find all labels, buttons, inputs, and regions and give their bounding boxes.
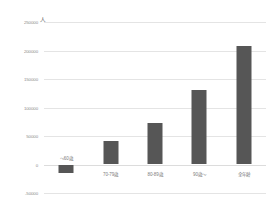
bar-series: ～60歳70-79歳80-89歳90歳～全年齢 <box>44 22 266 193</box>
y-axis-tick-label: 150000 <box>0 77 38 82</box>
x-axis-category-label: ～60歳 <box>60 155 73 161</box>
x-axis-category-label: 90歳～ <box>193 171 206 177</box>
bar <box>236 46 251 165</box>
bar-group: 90歳～ <box>177 22 221 193</box>
plot-area: ～60歳70-79歳80-89歳90歳～全年齢 <box>44 22 266 193</box>
bar <box>147 123 162 165</box>
y-axis-tick-label: 200000 <box>0 48 38 53</box>
y-axis-tick-label: 100000 <box>0 105 38 110</box>
bar-group: ～60歳 <box>44 22 88 193</box>
y-axis-tick-label: 0 <box>0 162 38 167</box>
bar-chart: 人 ～60歳70-79歳80-89歳90歳～全年齢 25000020000015… <box>0 0 271 217</box>
y-axis-tick-label: 250000 <box>0 20 38 25</box>
bar-group: 80-89歳 <box>133 22 177 193</box>
y-axis-tick-label: 50000 <box>0 134 38 139</box>
y-axis-tick-label: -50000 <box>0 191 38 196</box>
bar <box>59 165 74 174</box>
bar-group: 70-79歳 <box>88 22 132 193</box>
x-axis-category-label: 70-79歳 <box>103 171 118 177</box>
x-axis-category-label: 80-89歳 <box>148 171 163 177</box>
gridline <box>44 193 266 194</box>
bar <box>192 90 207 164</box>
bar-group: 全年齢 <box>222 22 266 193</box>
bar <box>103 141 118 165</box>
x-axis-category-label: 全年齢 <box>238 171 250 177</box>
